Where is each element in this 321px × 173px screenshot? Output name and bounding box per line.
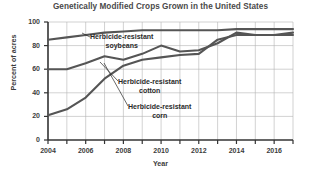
annotation-cotton-line1: Herbicide-resistant — [118, 78, 181, 85]
annotation-corn-line1: Herbicide-resistant — [128, 103, 191, 110]
x-tick-label-2016: 2016 — [259, 147, 289, 154]
y-tick-label-60: 60 — [20, 65, 40, 72]
x-tick-label-2010: 2010 — [146, 147, 176, 154]
x-tick-label-2014: 2014 — [222, 147, 252, 154]
annotation-soybeans-line2: soybeans — [90, 42, 153, 51]
x-tick-label-2012: 2012 — [184, 147, 214, 154]
x-tick-label-2004: 2004 — [33, 147, 63, 154]
annotation-corn-line2: corn — [128, 112, 191, 121]
annotation-soybeans-line1: Herbicide-resistant — [90, 33, 153, 40]
chart-figure: Genetically Modified Crops Grown in the … — [0, 0, 321, 173]
y-tick-label-0: 0 — [20, 136, 40, 143]
annotation-corn: Herbicide-resistant corn — [128, 103, 191, 120]
x-axis-label: Year — [0, 159, 321, 168]
y-axis-label: Percent of acres — [9, 28, 18, 98]
annotation-soybeans: Herbicide-resistant soybeans — [90, 33, 153, 50]
y-tick-label-80: 80 — [20, 42, 40, 49]
y-tick-label-100: 100 — [20, 18, 40, 25]
x-tick-label-2008: 2008 — [108, 147, 138, 154]
annotation-cotton-line2: cotton — [118, 87, 181, 96]
x-tick-label-2006: 2006 — [71, 147, 101, 154]
y-tick-label-20: 20 — [20, 112, 40, 119]
annotation-cotton: Herbicide-resistant cotton — [118, 78, 181, 95]
y-tick-label-40: 40 — [20, 89, 40, 96]
